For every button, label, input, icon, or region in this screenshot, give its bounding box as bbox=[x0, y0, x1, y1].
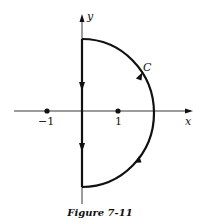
down-arrow-icon bbox=[79, 143, 85, 152]
figure-caption: Figure 7-11 bbox=[0, 207, 200, 218]
tick-label-minus-one: −1 bbox=[38, 116, 54, 127]
contour-label: C bbox=[143, 62, 151, 73]
contour-diagram-svg bbox=[0, 0, 200, 224]
y-axis-arrow-icon bbox=[80, 14, 85, 22]
x-axis-arrow-icon bbox=[185, 109, 193, 114]
tick-label-one: 1 bbox=[115, 116, 122, 127]
x-axis-label: x bbox=[185, 116, 191, 127]
down-arrow-icon bbox=[79, 82, 85, 91]
y-axis-label: y bbox=[87, 11, 93, 22]
point-one bbox=[115, 108, 120, 113]
point-minus-one bbox=[44, 108, 49, 113]
